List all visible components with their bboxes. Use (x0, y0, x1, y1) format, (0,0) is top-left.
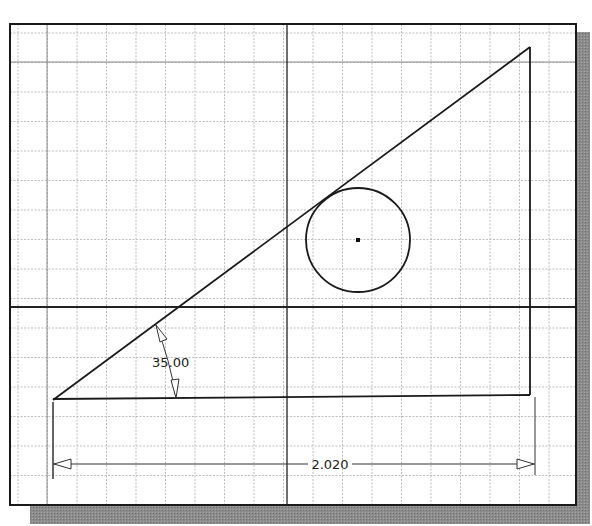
circle-center-point[interactable] (356, 238, 360, 242)
sketch-frame (10, 24, 576, 505)
sketch-canvas[interactable]: 35.00 2.020 (0, 0, 592, 526)
angle-dimension-value[interactable]: 35.00 (152, 355, 189, 370)
linear-dimension-value[interactable]: 2.020 (311, 457, 348, 472)
